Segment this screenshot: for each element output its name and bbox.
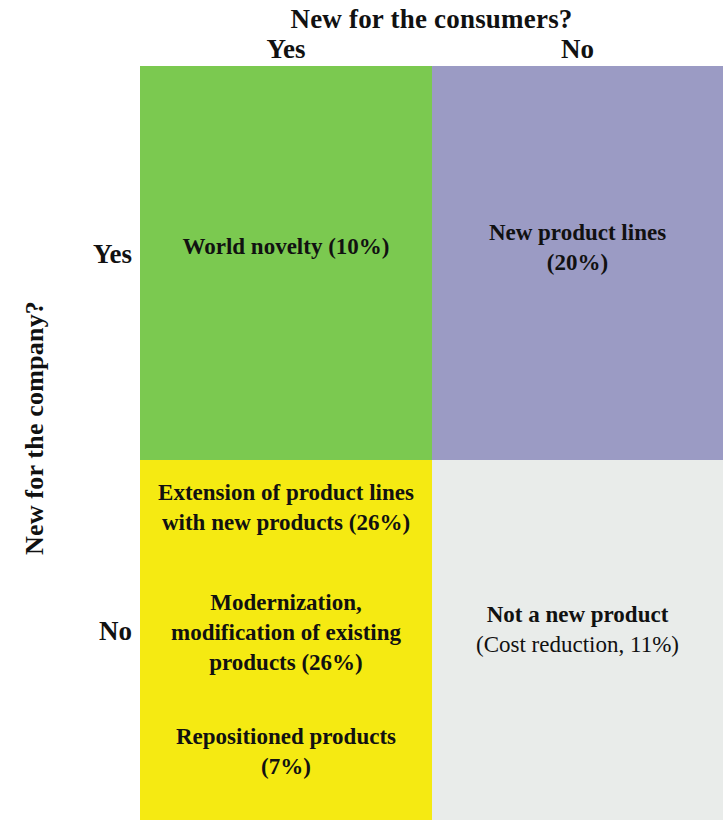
quadrant-item-repositioned-products: Repositioned products (7%) — [140, 722, 432, 782]
row-axis-title: New for the company? — [20, 218, 50, 638]
quadrant-new-product-lines-line2: (20%) — [547, 250, 608, 275]
quadrant-item-extension-of-product-lines: Extension of product lines with new prod… — [140, 478, 432, 538]
quadrant-new-product-lines-label: New product lines (20%) — [432, 218, 723, 278]
quadrant-world-novelty-label: World novelty (10%) — [140, 232, 432, 262]
column-header-no: No — [432, 33, 723, 66]
quadrant-not-a-new-product[interactable]: Not a new product (Cost reduction, 11%) — [432, 460, 723, 820]
quadrant-item-modernization-modification: Modernization, modification of existing … — [140, 588, 432, 678]
product-innovation-matrix: World novelty (10%) New product lines (2… — [140, 66, 723, 820]
quadrant-not-a-new-product-title: Not a new product — [487, 602, 669, 627]
quadrant-extension-modernization-repositioned[interactable]: Extension of product lines with new prod… — [140, 460, 432, 820]
row-header-no: No — [40, 615, 132, 647]
quadrant-not-a-new-product-label: Not a new product (Cost reduction, 11%) — [432, 600, 723, 660]
quadrant-world-novelty[interactable]: World novelty (10%) — [140, 66, 432, 460]
column-axis-title: New for the consumers? — [140, 2, 723, 36]
row-header-yes: Yes — [40, 238, 132, 270]
quadrant-new-product-lines[interactable]: New product lines (20%) — [432, 66, 723, 460]
quadrant-not-a-new-product-subtitle: (Cost reduction, 11%) — [440, 630, 715, 660]
quadrant-new-product-lines-line1: New product lines — [489, 220, 666, 245]
column-header-yes: Yes — [140, 33, 432, 66]
